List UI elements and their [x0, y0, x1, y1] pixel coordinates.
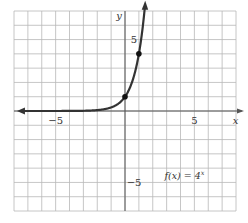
function-graph: −555−5xyf(x) = 4x: [0, 0, 248, 223]
x-tick-label: 5: [191, 115, 197, 126]
x-tick-label: −5: [48, 115, 63, 126]
curve-arrow-up-icon: [142, 1, 149, 10]
data-point: [136, 51, 142, 57]
function-label: f(x) = 4x: [163, 169, 204, 181]
x-axis-label: x: [233, 115, 239, 126]
x-axis-arrow-icon: [237, 109, 244, 114]
data-point: [122, 94, 128, 100]
y-axis-label: y: [115, 10, 122, 21]
y-tick-label: −5: [127, 177, 142, 188]
y-tick-label: 5: [131, 34, 137, 45]
axis-labels: −555−5xyf(x) = 4x: [48, 10, 238, 188]
